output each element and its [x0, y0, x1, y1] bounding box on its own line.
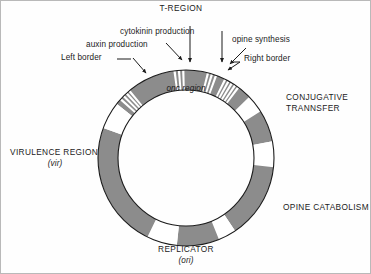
plasmid-ring-svg	[0, 0, 371, 274]
label-left-border: Left border	[61, 54, 102, 63]
ring-inner-circle	[118, 90, 254, 226]
ring-segment	[253, 141, 274, 167]
label-right-border: Right border	[244, 55, 290, 64]
ring-segment	[224, 165, 273, 231]
ring-segments	[0, 0, 371, 274]
label-auxin-production: auxin production	[86, 41, 148, 50]
label-virulence-sub: (vir)	[48, 160, 63, 169]
label-conjugative-transfer-line2: TRANNSFER	[286, 104, 340, 113]
label-replicator: REPLICATOR	[158, 245, 214, 254]
label-onc-region: onc region	[166, 85, 205, 94]
label-cytokinin-production: cytokinin production	[120, 28, 194, 37]
label-t-region: T-REGION	[160, 4, 203, 13]
label-virulence-region: VIRULENCE REGION	[10, 148, 98, 157]
label-opine-catabolism: OPINE CATABOLISM	[283, 203, 369, 212]
ring-segment	[98, 128, 156, 237]
ti-plasmid-diagram: T-REGION cytokinin production auxin prod…	[0, 0, 371, 274]
label-conjugative-transfer-line1: CONJUGATIVE	[286, 93, 348, 102]
label-opine-synthesis: opine synthesis	[232, 36, 290, 45]
label-replicator-sub: (ori)	[178, 257, 193, 266]
